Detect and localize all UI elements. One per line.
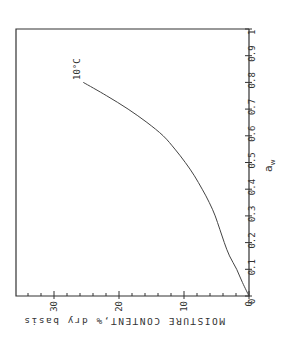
moisture-tick-label: 0 xyxy=(244,301,254,306)
aw-tick-label: 0.7 xyxy=(247,99,257,115)
aw-tick-label: 0.5 xyxy=(247,152,257,168)
moisture-tick-label: 20 xyxy=(114,301,124,312)
plot-frame xyxy=(16,29,249,296)
moisture-axis-ticks xyxy=(28,291,249,299)
moisture-tick-label: 10 xyxy=(179,301,189,312)
aw-tick-label: 0.9 xyxy=(247,45,257,61)
moisture-axis-tick-labels: 0102030 xyxy=(49,301,254,312)
aw-tick-label: 1 xyxy=(247,30,257,35)
moisture-tick-label: 30 xyxy=(49,301,59,312)
aw-tick-label: 0.8 xyxy=(247,72,257,88)
sorption-isotherm-chart: 00.10.20.30.40.50.60.70.80.91 0102030 10… xyxy=(0,0,286,345)
curve-label-10c: 10°C xyxy=(72,58,82,80)
aw-tick-label: 0.6 xyxy=(247,126,257,142)
frame-border xyxy=(16,29,249,296)
x-axis-title-aw: aw xyxy=(262,159,277,172)
aw-main: a xyxy=(262,165,275,172)
aw-tick-label: 0.1 xyxy=(247,259,257,275)
y-axis-title-moisture: MOISTURE CONTENT,% dry basis xyxy=(23,316,225,327)
aw-sub: w xyxy=(269,159,277,165)
aw-tick-label: 0.4 xyxy=(247,179,257,195)
aw-tick-label: 0.2 xyxy=(247,232,257,248)
isotherm-curve-10c xyxy=(83,82,249,296)
aw-tick-label: 0.3 xyxy=(247,206,257,222)
